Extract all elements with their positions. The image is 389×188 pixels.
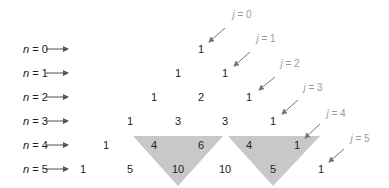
diagonal-label-j1: j = 1 bbox=[256, 33, 275, 44]
cell-n3-k3: 1 bbox=[270, 115, 276, 127]
cell-n1-k1: 1 bbox=[222, 67, 228, 79]
cell-n3-k2: 3 bbox=[222, 115, 228, 127]
diagonal-label-j4: j = 4 bbox=[326, 108, 345, 119]
cell-n4-k1: 4 bbox=[151, 139, 157, 151]
cell-n5-k5: 1 bbox=[318, 163, 324, 175]
diagonal-label-j2: j = 2 bbox=[280, 58, 299, 69]
row-label-n4: n = 4 bbox=[23, 139, 48, 151]
row-label-n5: n = 5 bbox=[23, 163, 48, 175]
pascal-triangle-diagram: n = 0 n = 1 n = 2 n = 3 n = 4 n = 5 1 1 … bbox=[0, 0, 389, 188]
cell-n5-k1: 5 bbox=[127, 163, 133, 175]
row-label-n3: n = 3 bbox=[23, 115, 48, 127]
cell-n5-k4: 5 bbox=[270, 163, 276, 175]
diagonal-label-j3: j = 3 bbox=[303, 82, 322, 93]
highlight-triangle-2 bbox=[228, 136, 320, 186]
cell-n4-k0: 1 bbox=[103, 139, 109, 151]
diagram-graphics bbox=[0, 0, 389, 188]
cell-n2-k2: 1 bbox=[246, 91, 252, 103]
cell-n5-k0: 1 bbox=[80, 163, 86, 175]
cell-n2-k0: 1 bbox=[151, 91, 157, 103]
cell-n5-k3: 10 bbox=[219, 163, 231, 175]
diagonal-label-j0: j = 0 bbox=[232, 9, 251, 20]
cell-n4-k2: 6 bbox=[198, 139, 204, 151]
cell-n5-k2: 10 bbox=[172, 163, 184, 175]
row-label-n2: n = 2 bbox=[23, 91, 48, 103]
cell-n3-k0: 1 bbox=[127, 115, 133, 127]
row-arrows bbox=[46, 49, 68, 169]
cell-n4-k4: 1 bbox=[294, 139, 300, 151]
cell-n4-k3: 4 bbox=[246, 139, 252, 151]
row-label-n1: n = 1 bbox=[23, 67, 48, 79]
cell-n1-k0: 1 bbox=[175, 67, 181, 79]
row-label-n0: n = 0 bbox=[23, 43, 48, 55]
cell-n3-k1: 3 bbox=[175, 115, 181, 127]
cell-n2-k1: 2 bbox=[198, 91, 204, 103]
highlight-triangle-1 bbox=[133, 136, 223, 186]
cell-n0-k0: 1 bbox=[198, 43, 204, 55]
diagonal-label-j5: j = 5 bbox=[350, 133, 369, 144]
